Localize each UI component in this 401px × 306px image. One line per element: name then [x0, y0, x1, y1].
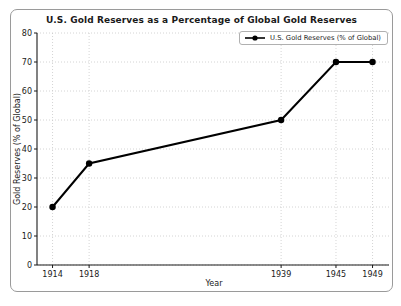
plot-area: Year Gold Reserves (% of Global) 1914191…	[11, 10, 392, 291]
y-tick-label: 30	[22, 174, 32, 183]
x-axis-label: Year	[205, 279, 224, 288]
y-tick-label: 20	[22, 203, 32, 212]
legend-line-marker-icon	[245, 34, 265, 42]
y-tick-label: 80	[22, 29, 32, 38]
y-axis-label: Gold Reserves (% of Global)	[13, 93, 22, 205]
y-tick-label: 0	[27, 261, 32, 270]
legend: U.S. Gold Reserves (% of Global)	[239, 31, 388, 45]
x-tick-label: 1939	[271, 270, 291, 279]
grid-lines	[37, 33, 389, 265]
x-tick-label: 1945	[326, 270, 346, 279]
data-line	[53, 62, 373, 207]
y-tick-label: 70	[22, 58, 32, 67]
y-tick-label: 40	[22, 145, 32, 154]
axes-spines	[37, 33, 389, 265]
legend-label: U.S. Gold Reserves (% of Global)	[270, 34, 381, 42]
chart-panel: U.S. Gold Reserves as a Percentage of Gl…	[10, 9, 393, 292]
x-tick-label: 1914	[42, 270, 62, 279]
x-tick-label: 1918	[79, 270, 99, 279]
x-tick-label: 1949	[362, 270, 382, 279]
y-tick-label: 60	[22, 87, 32, 96]
data-points	[49, 59, 375, 210]
y-tick-labels: 01020304050607080	[22, 29, 37, 270]
x-tick-labels: 19141918193919451949	[42, 265, 382, 279]
y-tick-label: 50	[22, 116, 32, 125]
y-tick-label: 10	[22, 232, 32, 241]
